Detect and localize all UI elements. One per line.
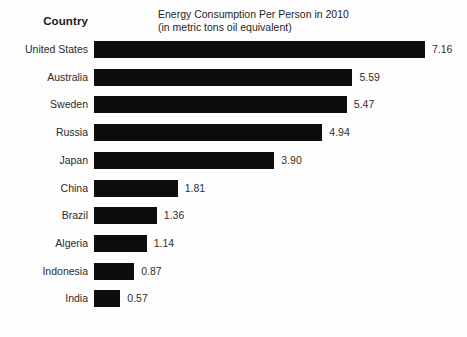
bar-category-label: Russia	[0, 124, 88, 141]
bar-category-label: Algeria	[0, 235, 88, 252]
bar	[94, 69, 352, 86]
bar-row: India0.57	[0, 290, 467, 318]
bar-value-label: 5.59	[352, 69, 379, 86]
bar	[94, 96, 347, 113]
bar-value-label: 0.57	[120, 290, 147, 307]
bar-value-label: 1.81	[178, 180, 205, 197]
bar	[94, 207, 157, 224]
bar-row: Indonesia0.87	[0, 263, 467, 291]
bar	[94, 152, 274, 169]
bar-value-label: 5.47	[347, 96, 374, 113]
chart-header: Country Energy Consumption Per Person in…	[0, 0, 467, 38]
bar-category-label: Brazil	[0, 207, 88, 224]
bar-category-label: Australia	[0, 69, 88, 86]
bar-row: United States7.16	[0, 41, 467, 69]
bar-row: Australia5.59	[0, 69, 467, 97]
bar	[94, 263, 134, 280]
bar-category-label: China	[0, 180, 88, 197]
bar-row: Algeria1.14	[0, 235, 467, 263]
chart-title-block: Energy Consumption Per Person in 2010 (i…	[158, 8, 349, 34]
plot-area: United States7.16Australia5.59Sweden5.47…	[0, 38, 467, 337]
bar-row: Russia4.94	[0, 124, 467, 152]
bar	[94, 41, 425, 58]
bar-category-label: Sweden	[0, 96, 88, 113]
bar-category-label: United States	[0, 41, 88, 58]
bar	[94, 235, 147, 252]
bar-category-label: Japan	[0, 152, 88, 169]
bar-value-label: 7.16	[425, 41, 452, 58]
bar-row: China1.81	[0, 180, 467, 208]
bar-row: Brazil1.36	[0, 207, 467, 235]
bar-row: Sweden5.47	[0, 96, 467, 124]
bar-value-label: 3.90	[274, 152, 301, 169]
chart-subtitle: (in metric tons oil equivalent)	[158, 21, 349, 34]
bar-category-label: India	[0, 290, 88, 307]
bar	[94, 290, 120, 307]
bar	[94, 180, 178, 197]
chart-title: Energy Consumption Per Person in 2010	[158, 8, 349, 21]
bar-category-label: Indonesia	[0, 263, 88, 280]
bar	[94, 124, 322, 141]
bar-value-label: 1.36	[157, 207, 184, 224]
bar-value-label: 0.87	[134, 263, 161, 280]
bar-row: Japan3.90	[0, 152, 467, 180]
bar-value-label: 4.94	[322, 124, 349, 141]
bar-value-label: 1.14	[147, 235, 174, 252]
bar-chart: Country Energy Consumption Per Person in…	[0, 0, 467, 337]
column-header-country: Country	[0, 15, 88, 27]
